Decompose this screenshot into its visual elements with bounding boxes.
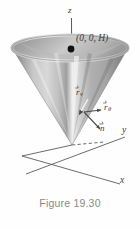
- figure-container: z y x (0, 0, H) r v r θ n Figure 19.30: [0, 0, 140, 229]
- r-v-glyph: r: [76, 88, 80, 97]
- r-theta-glyph: r: [104, 103, 108, 112]
- x-axis-label: x: [120, 176, 124, 186]
- apex-point-dot: [68, 46, 75, 53]
- vector-overbar-icon: [99, 121, 104, 125]
- r-theta-vector-label: r θ: [104, 103, 111, 113]
- figure-caption: Figure 19.30: [0, 197, 140, 209]
- n-vector-label: n: [100, 124, 105, 133]
- y-axis-line: [26, 137, 125, 174]
- x-axis-back-segment: [22, 145, 72, 156]
- vector-overbar-icon: [103, 100, 107, 104]
- n-glyph: n: [100, 124, 105, 133]
- apex-point-label: (0, 0, H): [76, 34, 108, 44]
- vector-overbar-icon: [75, 85, 79, 89]
- z-axis-label: z: [68, 6, 72, 15]
- y-axis-dashed-segment: [72, 142, 104, 145]
- cone-diagram: [0, 0, 140, 200]
- r-theta-subscript: θ: [108, 105, 111, 112]
- r-v-subscript: v: [80, 90, 83, 97]
- y-axis-label: y: [122, 126, 126, 136]
- r-v-vector-label: r v: [76, 88, 83, 98]
